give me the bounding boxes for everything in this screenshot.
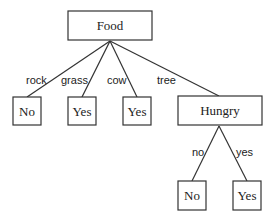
edge-tree [110, 41, 219, 96]
node-label: Yes [73, 104, 92, 119]
edge-label-tree: tree [157, 74, 176, 86]
node-label: Hungry [200, 103, 240, 118]
edge-label-yes: yes [236, 146, 254, 158]
edge-cow [110, 41, 137, 97]
node-label: No [19, 104, 35, 119]
node-label: Yes [128, 104, 147, 119]
node-leaf-cow: Yes [123, 97, 151, 125]
node-hungry: Hungry [178, 96, 262, 125]
decision-tree-diagram: rockgrasscowtreenoyes FoodNoYesYesHungry… [0, 0, 275, 221]
edge-grass [82, 41, 110, 97]
node-leaf-no: No [178, 181, 206, 210]
edge-label-rock: rock [26, 74, 47, 86]
edge-label-grass: grass [61, 74, 88, 86]
node-leaf-grass: Yes [68, 97, 96, 125]
edge-label-no: no [192, 146, 204, 158]
node-leaf-rock: No [13, 97, 41, 125]
node-label: Food [97, 18, 124, 33]
node-label: No [184, 188, 200, 203]
edge-rock [27, 41, 110, 97]
node-label: Yes [238, 188, 257, 203]
node-food: Food [68, 11, 152, 40]
edge-label-cow: cow [107, 74, 127, 86]
node-leaf-yes: Yes [233, 181, 261, 210]
